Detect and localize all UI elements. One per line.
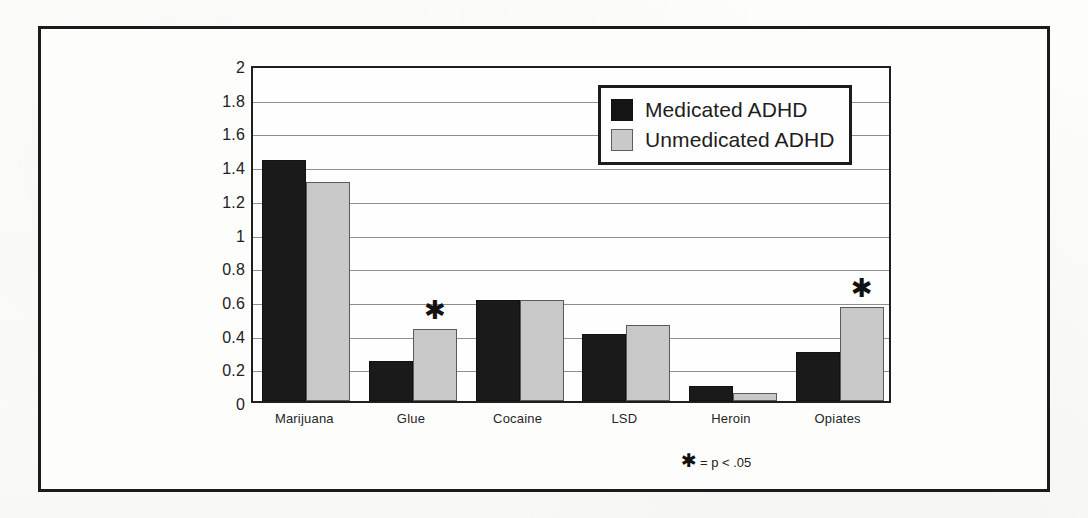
x-tick-label: Cocaine [493,411,542,426]
x-tick-label: Heroin [711,411,751,426]
y-tick-label: 0.4 [222,329,245,347]
bar-cocaine-medicated [476,300,520,401]
bar-glue-medicated [369,361,413,401]
legend-label: Medicated ADHD [645,98,807,122]
legend-swatch-icon [611,99,633,121]
x-tick-label: Opiates [815,411,861,426]
y-tick-label: 0.8 [222,261,245,279]
legend-swatch-icon [611,129,633,151]
y-tick-label: 1.4 [222,160,245,178]
bar-opiates-unmedicated [840,307,884,401]
legend-item: Medicated ADHD [611,95,835,125]
y-tick-label: 1.2 [222,194,245,212]
bar-marijuana-unmedicated [306,182,350,401]
bar-group [253,68,360,401]
bar-group [466,68,573,401]
x-tick-label: Glue [397,411,425,426]
legend: Medicated ADHDUnmedicated ADHD [598,85,852,165]
y-tick-label: 1.6 [222,126,245,144]
bar-group: ✱ [360,68,467,401]
y-axis: 00.20.40.60.811.21.41.61.82 [191,66,245,403]
legend-label: Unmedicated ADHD [645,128,835,152]
y-tick-label: 1 [236,228,245,246]
bar-marijuana-medicated [262,160,306,401]
bar-cocaine-unmedicated [520,300,564,401]
x-axis: MarijuanaGlueCocaineLSDHeroinOpiates [251,411,891,437]
y-tick-label: 0.6 [222,295,245,313]
legend-item: Unmedicated ADHD [611,125,835,155]
bar-glue-unmedicated [413,329,457,401]
bar-heroin-unmedicated [733,393,777,401]
x-tick-label: LSD [611,411,637,426]
figure-frame: 00.20.40.60.811.21.41.61.82 ✱✱ Marijuana… [38,26,1050,492]
significance-asterisk: ✱ [424,297,446,323]
significance-footnote: ✱ = p < .05 [681,451,751,470]
significance-asterisk: ✱ [851,275,873,301]
bar-lsd-unmedicated [626,325,670,401]
bar-opiates-medicated [796,352,840,401]
bar-lsd-medicated [582,334,626,401]
bar-heroin-medicated [689,386,733,401]
asterisk-icon: ✱ [681,451,697,470]
y-tick-label: 0.2 [222,362,245,380]
y-tick-label: 0 [236,396,245,414]
y-tick-label: 2 [236,59,245,77]
footnote-label: = p < .05 [700,455,751,470]
x-tick-label: Marijuana [275,411,334,426]
y-tick-label: 1.8 [222,93,245,111]
